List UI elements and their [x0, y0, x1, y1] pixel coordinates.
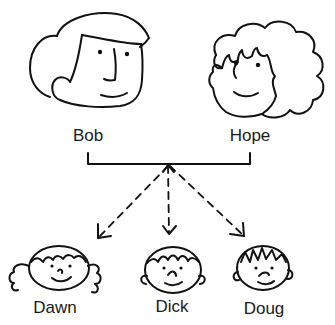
bob-face-icon [30, 13, 149, 107]
child-label-doug: Doug [244, 299, 285, 319]
family-tree-diagram: Bob Hope Dawn Dick Doug [0, 0, 335, 325]
child-label-dawn: Dawn [33, 298, 76, 318]
dashed-arrows [98, 165, 244, 238]
child-label-dick: Dick [155, 297, 188, 317]
dawn-face-icon [10, 246, 101, 292]
diagram-drawing [0, 0, 335, 325]
parent-label-bob: Bob [73, 126, 103, 146]
parent-label-hope: Hope [230, 126, 271, 146]
hope-face-icon [209, 22, 323, 118]
doug-face-icon [234, 246, 293, 290]
parent-bracket [88, 153, 250, 164]
dick-face-icon [141, 247, 205, 293]
